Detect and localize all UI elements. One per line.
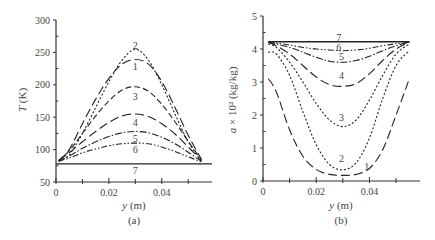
- figure: 5010015020025030000.020.04 1234567 T (K)…: [0, 0, 435, 240]
- panel-b-curve-labels: 1234567: [336, 32, 369, 173]
- curve-label-6: 6: [336, 42, 341, 53]
- curve-label-5: 5: [133, 133, 138, 144]
- y-tick-label: 200: [35, 79, 50, 90]
- y-tick-label: 300: [35, 15, 50, 26]
- panel-b-x-axis-label: y (m): [328, 199, 353, 212]
- panel-b-y-axis-label: a × 10² (kg/kg): [226, 66, 239, 133]
- curve-3: [59, 87, 202, 161]
- curve-label-4: 4: [339, 70, 344, 81]
- curve-label-7: 7: [336, 32, 341, 43]
- panel-b-concentration-plot: 01234500.020.04 1234567 a × 10² (kg/kg) …: [226, 11, 420, 228]
- panel-a-curve-labels: 1234567: [133, 40, 138, 177]
- y-tick-label: 2: [252, 110, 257, 121]
- curve-label-2: 2: [133, 40, 138, 51]
- curve-label-3: 3: [133, 91, 138, 102]
- y-tick-label: 0: [252, 176, 257, 187]
- x-tick-label: 0.04: [361, 186, 379, 197]
- x-tick-label: 0.02: [100, 187, 118, 198]
- y-tick-label: 50: [40, 177, 50, 188]
- x-tick-label: 0: [54, 187, 59, 198]
- panel-b-caption: (b): [335, 214, 348, 227]
- curve-label-4: 4: [133, 117, 138, 128]
- curve-label-1: 1: [133, 61, 138, 72]
- panel-a-x-axis-label: y (m): [121, 199, 146, 212]
- x-tick-label: 0: [261, 186, 266, 197]
- y-tick-label: 3: [252, 77, 257, 88]
- curve-label-2: 2: [339, 153, 344, 164]
- y-tick-label: 100: [35, 144, 50, 155]
- curve-label-1: 1: [364, 161, 369, 172]
- curve-label-7: 7: [133, 165, 138, 176]
- curve-label-6: 6: [133, 144, 138, 155]
- y-tick-label: 1: [252, 143, 257, 154]
- y-tick-label: 150: [35, 112, 50, 123]
- y-tick-label: 250: [35, 47, 50, 58]
- y-tick-label: 5: [252, 11, 257, 22]
- curve-1: [59, 60, 202, 161]
- curve-6: [59, 143, 202, 162]
- curve-label-3: 3: [339, 112, 344, 123]
- x-tick-label: 0.02: [307, 186, 325, 197]
- y-tick-label: 4: [252, 44, 257, 55]
- panel-a-y-axis-label: T (K): [16, 88, 29, 112]
- panel-a-axes: 5010015020025030000.020.04: [35, 15, 212, 199]
- panel-a-caption: (a): [128, 214, 141, 227]
- panel-a-temperature-plot: 5010015020025030000.020.04 1234567 T (K)…: [16, 15, 212, 228]
- x-tick-label: 0.04: [153, 187, 171, 198]
